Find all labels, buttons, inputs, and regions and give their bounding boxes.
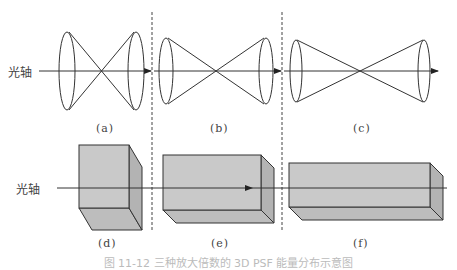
box-e — [163, 155, 274, 223]
panel-label-f: (f) — [353, 237, 369, 250]
panel-label-e: (e) — [211, 237, 229, 250]
panel-label-d: (d) — [98, 237, 117, 250]
panel-label-b: (b) — [210, 122, 229, 135]
optical-axis-label-bottom: 光轴 — [16, 180, 40, 197]
box-f — [289, 163, 443, 220]
figure-caption: 图 11-12 三种放大倍数的 3D PSF 能量分布示意图 — [0, 254, 457, 270]
panel-label-c: (c) — [353, 122, 371, 135]
panel-label-a: (a) — [96, 122, 114, 135]
optical-axis-label-top: 光轴 — [8, 63, 32, 80]
